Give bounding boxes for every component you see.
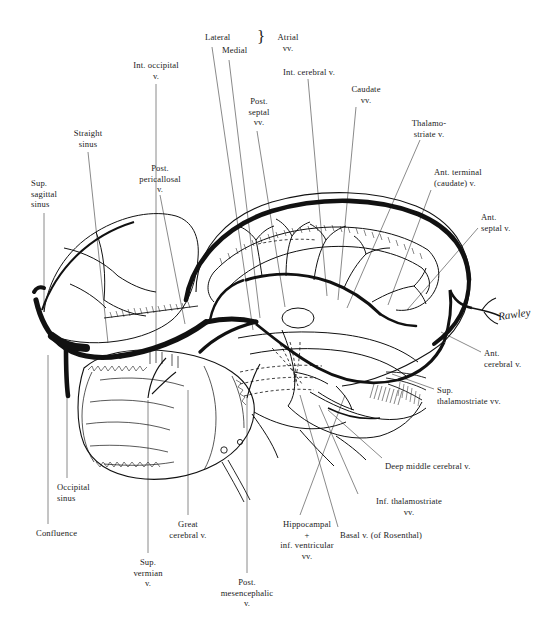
hidden-veins-dashed [240,239,322,396]
leader-basal-v-rosenthal [300,395,338,527]
label-post-septal-vv: Post. septal vv. [238,96,280,128]
figure-canvas: Int. occipital v.LateralMedialAtrial vv.… [0,0,549,635]
label-basal-v-rosenthal: Basal v. (of Rosenthal) [340,530,456,541]
lateral-ventricle-outline [238,330,418,406]
label-post-mesencephalic-v: Post. mesencephalic v. [205,577,289,609]
label-post-pericallosal-v: Post. pericallosal v. [128,163,192,195]
label-ant-cerebral-v: Ant. cerebral v. [484,348,542,369]
label-occipital-sinus: Occipital sinus [57,482,109,503]
label-int-cerebral-v: Int. cerebral v. [283,67,363,78]
label-ant-terminal-caudate-v: Ant. terminal (caudate) v. [434,167,510,188]
leader-post-pericallosal-v [160,195,185,324]
tentorium-hatching [104,302,198,318]
leader-thalamostriate-v [347,140,420,308]
cerebellum [78,350,254,479]
temporal-lobe [288,386,426,438]
brainstem-contour [222,412,346,502]
label-hippocampal-inf-vent: Hippocampal + inf. ventricular vv. [262,519,352,561]
label-deep-middle-cerebral-v: Deep middle cerebral v. [385,461,499,472]
atrial-group-brace: } [257,28,265,45]
leader-int-cerebral-v [308,79,327,296]
leader-caudate-vv [338,107,356,300]
label-inf-thalamostriate-vv: Inf. thalamostriate vv. [362,496,456,517]
label-atrial-vv: Atrial vv. [268,32,308,53]
occipital-lobe [44,214,198,343]
leader-post-septal-vv [257,131,285,307]
label-sup-sagittal-sinus: Sup. sagittal sinus [31,178,79,210]
label-lateral: Lateral [205,32,249,43]
dural-sinus-confluence [34,287,206,396]
thalamus-oval [282,308,314,328]
label-straight-sinus: Straight sinus [63,128,113,149]
label-caudate-vv: Caudate vv. [340,84,392,105]
label-thalamostriate-v: Thalamo- striate v. [400,118,458,139]
label-int-occipital-v: Int. occipital v. [120,60,192,81]
label-sup-thalamostriate-vv: Sup. thalamostriate vv. [437,385,533,406]
corpus-callosum [208,227,439,310]
label-ant-septal-v: Ant. septal v. [481,212,533,233]
label-great-cerebral-v: Great cerebral v. [160,519,216,540]
leader-sup-thalamostriate-vv [392,374,434,389]
leader-straight-sinus [88,152,108,343]
internal-cerebral-vein [246,274,416,326]
label-confluence: Confluence [36,528,98,539]
label-medial: Medial [222,45,266,56]
label-sup-vermian-v: Sup. vermian v. [124,557,172,589]
cerebellar-folia [82,351,244,470]
